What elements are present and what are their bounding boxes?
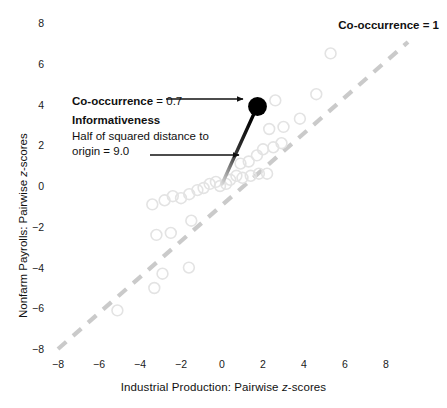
scatter-point	[186, 215, 197, 226]
y-tick-label: 4	[22, 99, 44, 111]
highlight-point	[248, 97, 267, 116]
y-axis-label: Nonfarm Payrolls: Pairwise z-scores	[17, 133, 29, 318]
annotation-reference-line-label: Co-occurrence = 1	[338, 18, 439, 32]
x-tick-label: −4	[134, 358, 146, 370]
scatter-point	[258, 144, 269, 155]
y-axis-label-text: Nonfarm Payrolls: Pairwise z-scores	[17, 133, 29, 318]
annotation-cooccurrence-value: = 0.7	[153, 95, 182, 107]
annotation-informativeness-line1: Half of squared distance to	[72, 129, 209, 143]
annotation-cooccurrence: Co-occurrence = 0.7	[72, 94, 182, 108]
scatter-point	[157, 268, 168, 279]
reference-line-cooccurrence-1	[58, 42, 408, 349]
x-axis-label: Industrial Production: Pairwise z-scores	[0, 381, 447, 393]
scatter-point	[165, 228, 176, 239]
x-tick-label: −6	[93, 358, 105, 370]
scatter-point	[184, 262, 195, 273]
scatter-point	[325, 48, 336, 59]
scatter-point	[270, 95, 281, 106]
scatter-point	[262, 168, 273, 179]
scatter-point	[252, 150, 263, 161]
x-axis-label-text: Industrial Production: Pairwise z-scores	[121, 381, 326, 393]
chart-canvas	[0, 0, 447, 408]
x-tick-label: −8	[52, 358, 64, 370]
annotation-cooccurrence-bold: Co-occurrence	[72, 95, 153, 107]
x-tick-label: 0	[219, 358, 225, 370]
annotation-reference-bold: Co-occurrence	[338, 19, 419, 31]
scatter-point	[278, 122, 289, 133]
scatter-point	[264, 124, 275, 135]
scatter-chart-figure: 8 6 4 2 0 −2 −4 −6 −8 −8 −6 −4 −2 0 2 4 …	[0, 0, 447, 408]
annotation-informativeness-line2: origin = 9.0	[72, 144, 129, 158]
x-tick-label: −2	[175, 358, 187, 370]
scatter-point	[149, 283, 160, 294]
scatter-point	[151, 230, 162, 241]
scatter-point	[112, 305, 123, 316]
scatter-point	[295, 113, 306, 124]
x-tick-label: 6	[342, 358, 348, 370]
y-tick-label: 8	[22, 17, 44, 29]
scatter-point	[311, 89, 322, 100]
y-tick-label: −8	[22, 343, 44, 355]
annotation-informativeness-title: Informativeness	[72, 113, 160, 127]
y-tick-label: 6	[22, 58, 44, 70]
x-tick-label: 2	[260, 358, 266, 370]
x-tick-label: 8	[383, 358, 389, 370]
scatter-point	[147, 199, 158, 210]
annotation-reference-value: = 1	[419, 19, 439, 31]
x-tick-label: 4	[301, 358, 307, 370]
